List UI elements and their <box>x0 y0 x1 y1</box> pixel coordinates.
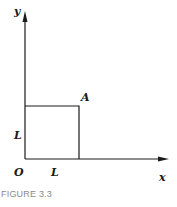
side-length-vertical-label: L <box>13 129 22 142</box>
x-axis-arrow-icon <box>158 157 169 162</box>
coordinate-diagram: y A L O L x <box>0 0 177 207</box>
y-axis-arrow-icon <box>23 11 28 22</box>
point-a-label: A <box>80 91 90 104</box>
side-length-horizontal-label: L <box>50 166 59 179</box>
origin-label: O <box>14 166 24 179</box>
figure-caption: FIGURE 3.3 <box>1 189 52 199</box>
x-axis-label: x <box>158 171 166 184</box>
square-outline <box>25 106 79 159</box>
y-axis-label: y <box>13 5 22 18</box>
